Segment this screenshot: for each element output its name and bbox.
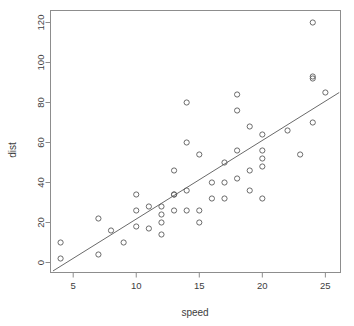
data-point (247, 168, 252, 173)
data-point (298, 152, 303, 157)
data-point (159, 220, 164, 225)
x-tick-label: 20 (257, 280, 268, 291)
data-point (247, 188, 252, 193)
y-tick-label: 0 (35, 260, 46, 265)
y-tick-label: 120 (35, 15, 46, 31)
data-point (260, 196, 265, 201)
data-point (197, 220, 202, 225)
x-axis: 510152025 (71, 273, 331, 291)
data-point (222, 180, 227, 185)
data-point (285, 128, 290, 133)
data-point (235, 92, 240, 97)
y-tick-label: 100 (35, 55, 46, 71)
scatter-plot-figure: 020406080100120 510152025 speed dist (0, 0, 354, 326)
data-point (108, 228, 113, 233)
data-point (260, 156, 265, 161)
data-point (96, 216, 101, 221)
data-point (260, 132, 265, 137)
data-point (260, 148, 265, 153)
data-point (134, 224, 139, 229)
data-point (159, 232, 164, 237)
plot-frame (51, 11, 341, 273)
data-point (184, 100, 189, 105)
x-tick-label: 15 (194, 280, 205, 291)
data-point (134, 192, 139, 197)
y-tick-label: 20 (35, 217, 46, 228)
data-point (159, 212, 164, 217)
data-point (209, 196, 214, 201)
data-point (310, 20, 315, 25)
data-point (235, 176, 240, 181)
data-point (184, 208, 189, 213)
data-point (58, 256, 63, 261)
y-axis-title: dist (7, 142, 18, 158)
y-axis: 020406080100120 (35, 15, 51, 266)
data-point (171, 168, 176, 173)
plot-canvas: 020406080100120 510152025 speed dist (0, 0, 354, 326)
data-point (96, 252, 101, 257)
data-point (184, 188, 189, 193)
y-tick-label: 60 (35, 137, 46, 148)
data-point (235, 148, 240, 153)
x-tick-label: 10 (131, 280, 142, 291)
data-point (310, 120, 315, 125)
x-tick-label: 25 (320, 280, 331, 291)
regression-line (53, 93, 339, 271)
x-axis-title: speed (181, 307, 208, 318)
data-point (197, 152, 202, 157)
data-point (146, 204, 151, 209)
y-tick-label: 40 (35, 177, 46, 188)
data-point (171, 208, 176, 213)
regression-line-segment (53, 93, 339, 271)
data-point (247, 124, 252, 129)
data-point (197, 208, 202, 213)
data-point (222, 196, 227, 201)
data-point (146, 226, 151, 231)
data-point (184, 140, 189, 145)
data-point (209, 180, 214, 185)
y-tick-label: 80 (35, 97, 46, 108)
x-tick-label: 5 (71, 280, 76, 291)
data-point (134, 208, 139, 213)
data-point (323, 90, 328, 95)
data-point (260, 164, 265, 169)
data-points (58, 20, 328, 261)
data-point (235, 108, 240, 113)
data-point (159, 204, 164, 209)
data-point (121, 240, 126, 245)
data-point (58, 240, 63, 245)
